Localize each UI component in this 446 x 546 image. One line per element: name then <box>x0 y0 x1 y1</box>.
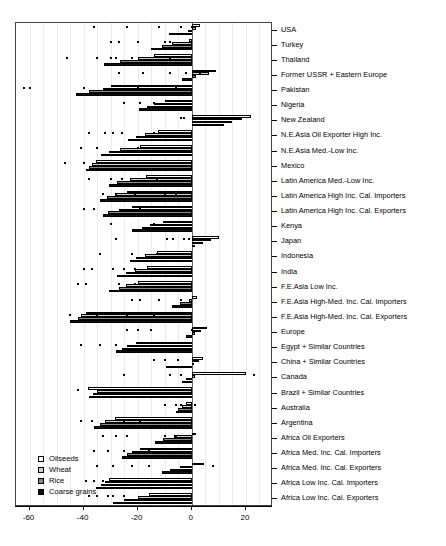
scatter-marker <box>115 238 117 240</box>
y-axis-tick <box>272 272 277 273</box>
y-axis-category-label: Former USSR + Eastern Europe <box>281 71 387 79</box>
y-axis-category-label: F.E.Asia Low Inc. <box>281 283 338 291</box>
y-axis-tick <box>272 135 277 136</box>
y-axis-category-label: India <box>281 268 297 276</box>
scatter-marker <box>83 208 85 210</box>
x-axis-tick <box>29 506 30 510</box>
scatter-marker <box>169 72 171 74</box>
legend-swatch-icon <box>38 489 44 495</box>
y-axis-tick <box>272 423 277 424</box>
scatter-marker <box>191 329 193 331</box>
scatter-marker <box>126 314 128 316</box>
y-axis-category-label: Africa Med. Inc. Cal. Exporters <box>281 464 381 472</box>
y-axis-tick <box>272 196 277 197</box>
scatter-marker <box>158 26 160 28</box>
scatter-marker <box>102 435 104 437</box>
scatter-marker <box>29 87 31 89</box>
scatter-marker <box>123 374 125 376</box>
y-axis-category-label: USA <box>281 26 296 34</box>
scatter-marker <box>96 495 98 497</box>
x-axis-tick-label: -20 <box>131 513 143 522</box>
scatter-marker <box>96 314 98 316</box>
scatter-marker <box>139 208 141 210</box>
y-axis-category-label: Turkey <box>281 41 303 49</box>
scatter-marker <box>80 147 82 149</box>
scatter-marker <box>156 253 158 255</box>
scatter-marker <box>131 299 133 301</box>
scatter-marker <box>93 26 95 28</box>
y-axis-category-label: Indonesia <box>281 252 313 260</box>
scatter-marker <box>166 253 168 255</box>
scatter-marker <box>175 193 177 195</box>
scatter-marker <box>121 178 123 180</box>
scatter-marker <box>123 268 125 270</box>
y-axis-tick <box>272 468 277 469</box>
chart-legend: OilseedsWheatRiceCoarse grains <box>38 453 96 497</box>
legend-label: Oilseeds <box>49 455 79 463</box>
scatter-marker <box>107 450 109 452</box>
scatter-marker <box>126 26 128 28</box>
y-axis-tick <box>272 453 277 454</box>
scatter-marker <box>153 132 155 134</box>
scatter-marker <box>77 389 79 391</box>
scatter-marker <box>115 193 117 195</box>
x-axis-tick-label: 20 <box>240 513 249 522</box>
scatter-marker <box>112 132 114 134</box>
scatter-marker <box>169 41 171 43</box>
scatter-marker <box>194 404 196 406</box>
markers-layer <box>16 23 271 505</box>
scatter-marker <box>123 420 125 422</box>
scatter-marker <box>110 41 112 43</box>
y-axis-tick <box>272 483 277 484</box>
x-axis-tick <box>83 506 84 510</box>
scatter-marker <box>156 178 158 180</box>
y-axis-category-label: N.E.Asia Oil Exporter High Inc. <box>281 131 382 139</box>
scatter-marker <box>153 359 155 361</box>
y-axis-category-label: Pakistan <box>281 86 309 94</box>
scatter-marker <box>99 389 101 391</box>
scatter-marker <box>118 41 120 43</box>
scatter-marker <box>134 283 136 285</box>
scatter-marker <box>164 193 166 195</box>
x-axis-tick-label: 0 <box>189 513 193 522</box>
y-axis-category-label: Nigeria <box>281 101 304 109</box>
y-axis-category-label: Australia <box>281 404 310 412</box>
scatter-marker <box>175 87 177 89</box>
legend-item: Coarse grains <box>38 486 96 497</box>
scatter-marker <box>102 480 104 482</box>
scatter-marker <box>150 329 152 331</box>
scatter-marker <box>175 435 177 437</box>
y-axis-tick <box>272 362 277 363</box>
y-axis-category-label: Latin America High Inc. Cal. Exporters <box>281 207 406 215</box>
scatter-marker <box>115 344 117 346</box>
y-axis-tick <box>272 151 277 152</box>
y-axis-tick <box>272 393 277 394</box>
scatter-marker <box>112 495 114 497</box>
y-axis-category-label: Africa Med. Inc. Cal. Importers <box>281 449 381 457</box>
y-axis-tick <box>272 438 277 439</box>
y-axis-category-label: Europe <box>281 328 305 336</box>
scatter-marker <box>142 72 144 74</box>
scatter-marker <box>83 162 85 164</box>
scatter-marker <box>169 57 171 59</box>
scatter-marker <box>121 132 123 134</box>
x-axis-tick <box>137 506 138 510</box>
x-axis-tick-label: -40 <box>77 513 89 522</box>
scatter-marker <box>123 495 125 497</box>
scatter-marker <box>175 162 177 164</box>
scatter-marker <box>169 374 171 376</box>
scatter-marker <box>69 314 71 316</box>
scatter-marker <box>93 208 95 210</box>
scatter-marker <box>99 344 101 346</box>
y-axis-category-label: Africa Low Inc. Cal. Exporters <box>281 494 378 502</box>
y-axis-tick <box>272 120 277 121</box>
scatter-marker <box>153 223 155 225</box>
x-axis-tick-label: -60 <box>23 513 35 522</box>
x-axis-tick <box>191 506 192 510</box>
scatter-marker <box>80 344 82 346</box>
y-axis-category-label: Japan <box>281 237 301 245</box>
y-axis-tick <box>272 181 277 182</box>
scatter-marker <box>96 57 98 59</box>
scatter-marker <box>139 420 141 422</box>
scatter-marker <box>123 102 125 104</box>
